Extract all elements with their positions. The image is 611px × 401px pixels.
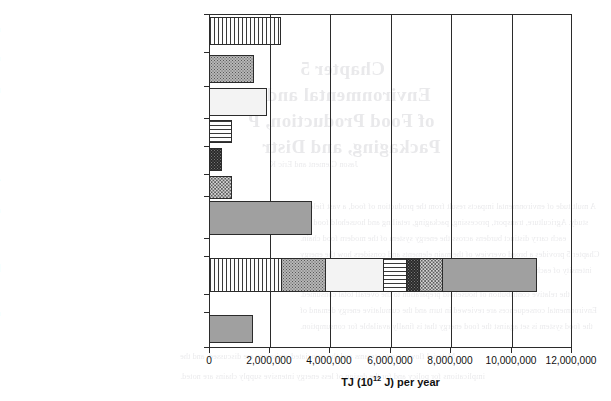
segment-commercial-food-service[interactable] <box>420 259 443 291</box>
y-tick <box>204 118 209 119</box>
x-tick-12000000 <box>571 348 572 353</box>
bar-agricultural-production[interactable] <box>209 17 281 45</box>
gridline-6000000 <box>391 15 392 347</box>
x-ticklabel-12000000: 12,000,000 <box>546 355 597 366</box>
x-ticklabel-2000000: 2,000,000 <box>246 355 291 366</box>
segment-processing[interactable] <box>326 259 384 291</box>
x-ticklabel-4000000: 4,000,000 <box>306 355 351 366</box>
y-tick <box>204 14 209 15</box>
x-tick-4000000 <box>329 348 330 353</box>
y-tick <box>204 294 209 295</box>
y-tick <box>204 256 209 257</box>
energy-bar-chart: Agricultural production Transportation(r… <box>0 0 611 401</box>
gridline-10000000 <box>512 15 513 347</box>
y-tick <box>204 238 209 239</box>
x-axis-ticks <box>0 348 611 354</box>
segment-agricultural-production[interactable] <box>210 259 282 291</box>
y-tick <box>204 52 209 53</box>
x-tick-6000000 <box>390 348 391 353</box>
x-ticklabel-6000000: 6,000,000 <box>367 355 412 366</box>
bar-transportation[interactable] <box>209 55 254 83</box>
x-axis-tick-labels: 0 2,000,000 4,000,000 6,000,000 8,000,00… <box>0 355 611 369</box>
x-tick-2000000 <box>269 348 270 353</box>
bar-food-energy-available[interactable] <box>209 315 253 343</box>
x-tick-0 <box>209 348 210 353</box>
x-tick-10000000 <box>511 348 512 353</box>
x-tick-8000000 <box>450 348 451 353</box>
bar-commercial-food-service[interactable] <box>209 176 232 199</box>
x-ticklabel-10000000: 10,000,000 <box>486 355 537 366</box>
gridline-2000000 <box>270 15 271 347</box>
bar-packaging-material[interactable] <box>209 120 232 143</box>
x-ticklabel-8000000: 8,000,000 <box>427 355 472 366</box>
x-axis-title-prefix: TJ (10 <box>341 376 373 388</box>
y-tick <box>204 86 209 87</box>
y-tick <box>204 146 209 147</box>
y-tick <box>204 174 209 175</box>
bar-household-storage[interactable] <box>209 201 312 235</box>
segment-transportation[interactable] <box>282 259 326 291</box>
segment-food-retail[interactable] <box>407 259 420 291</box>
x-axis-title-exponent: 12 <box>373 374 381 383</box>
plot-area <box>209 14 572 348</box>
x-axis-title: TJ (1012 J) per year <box>209 374 572 388</box>
x-ticklabel-0: 0 <box>206 355 212 366</box>
segment-household-storage[interactable] <box>443 259 537 291</box>
segment-packaging-material[interactable] <box>384 259 407 291</box>
gridline-8000000 <box>451 15 452 347</box>
bar-processing[interactable] <box>209 88 267 116</box>
x-axis-title-suffix: J) per year <box>381 376 440 388</box>
bar-food-retail[interactable] <box>209 148 222 171</box>
y-tick <box>204 312 209 313</box>
gridline-4000000 <box>330 15 331 347</box>
bar-total-energy-consumed[interactable] <box>209 258 537 292</box>
